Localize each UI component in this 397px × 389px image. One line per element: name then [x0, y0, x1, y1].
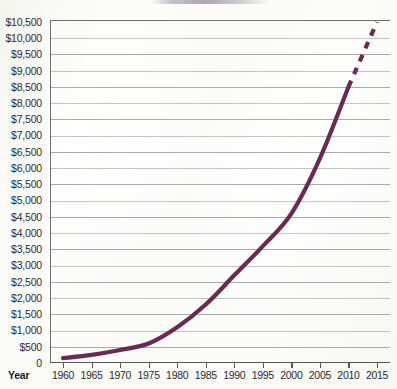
x-axis-tick [149, 363, 150, 368]
y-axis-tick-label: $3,000 [11, 260, 42, 271]
y-axis-tick-label: 0 [36, 358, 42, 369]
x-axis-tick-label: 1980 [166, 370, 188, 381]
y-axis-tick-label: $500 [19, 342, 42, 353]
x-axis-tick [63, 363, 64, 368]
gridline [51, 298, 390, 299]
gridline [51, 168, 390, 169]
y-axis-tick-label: $1,500 [11, 309, 42, 320]
x-axis-tick-label: 2015 [366, 370, 388, 381]
x-axis-line [50, 362, 390, 363]
x-axis-tick [177, 363, 178, 368]
y-axis-labels: $10,500$10,000$9,500$9,000$8,500$8,000$7… [0, 0, 46, 389]
gridline [51, 347, 390, 348]
y-axis-tick-label: $5,000 [11, 195, 42, 206]
gridline [51, 249, 390, 250]
x-axis-title: Year [8, 370, 29, 381]
gridline [51, 201, 390, 202]
gridline [51, 331, 390, 332]
x-axis-tick-label: 1990 [223, 370, 245, 381]
x-axis-tick-label: 1970 [109, 370, 131, 381]
gridline [51, 119, 390, 120]
gridline [51, 233, 390, 234]
x-axis-tick-label: 2005 [309, 370, 331, 381]
plot-frame-top [50, 20, 390, 21]
y-axis-tick-label: $5,500 [11, 179, 42, 190]
gridline [51, 152, 390, 153]
plot-area [50, 20, 390, 363]
y-axis-tick-label: $6,500 [11, 147, 42, 158]
y-axis-tick-label: $7,000 [11, 130, 42, 141]
gridline [51, 38, 390, 39]
y-axis-tick-label: $10,500 [5, 17, 42, 28]
gridline [51, 282, 390, 283]
x-axis-tick-label: 1985 [195, 370, 217, 381]
y-axis-tick-label: $9,000 [11, 66, 42, 77]
y-axis-tick-label: $4,000 [11, 228, 42, 239]
gridline [51, 87, 390, 88]
gridline [51, 136, 390, 137]
x-axis-tick [234, 363, 235, 368]
gridline [51, 103, 390, 104]
gridline [51, 314, 390, 315]
gridline [51, 217, 390, 218]
x-axis-tick-label: 2000 [280, 370, 302, 381]
x-axis-tick [348, 363, 349, 368]
y-axis-tick-label: $7,500 [11, 114, 42, 125]
y-axis-tick-label: $2,500 [11, 277, 42, 288]
x-axis-tick [206, 363, 207, 368]
x-axis-tick [92, 363, 93, 368]
y-axis-tick-label: $4,500 [11, 212, 42, 223]
x-axis-tick [291, 363, 292, 368]
x-axis-tick-label: 1965 [80, 370, 102, 381]
x-axis-tick [377, 363, 378, 368]
gridline [51, 266, 390, 267]
x-axis-tick [120, 363, 121, 368]
x-axis-tick-label: 1975 [138, 370, 160, 381]
chart-screenshot: $10,500$10,000$9,500$9,000$8,500$8,000$7… [0, 0, 397, 389]
y-axis-tick-label: $8,000 [11, 98, 42, 109]
y-axis-tick-label: $6,000 [11, 163, 42, 174]
y-axis-tick-label: $2,000 [11, 293, 42, 304]
x-axis-tick-label: 1995 [252, 370, 274, 381]
y-axis-tick-label: $3,500 [11, 244, 42, 255]
y-axis-tick-label: $1,000 [11, 325, 42, 336]
x-axis-tick [320, 363, 321, 368]
cropped-title-artifact [150, 0, 270, 4]
x-axis-tick [263, 363, 264, 368]
gridline [51, 54, 390, 55]
gridline [51, 71, 390, 72]
y-axis-tick-label: $10,000 [5, 33, 42, 44]
x-axis-tick-label: 2010 [337, 370, 359, 381]
x-axis-tick-label: 1960 [52, 370, 74, 381]
y-axis-tick-label: $8,500 [11, 82, 42, 93]
gridline [51, 184, 390, 185]
y-axis-tick-label: $9,500 [11, 49, 42, 60]
